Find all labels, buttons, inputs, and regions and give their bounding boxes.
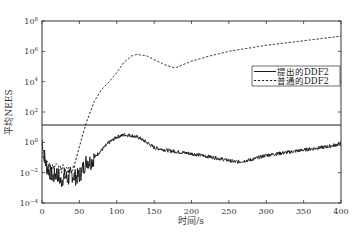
x-axis-ticks: 050100150200250300350400 <box>39 21 348 216</box>
y-tick-label: 102 <box>24 107 38 118</box>
legend: 提出的DDF2 普通的DDF2 <box>252 66 340 86</box>
y-tick-label: 104 <box>24 76 38 87</box>
x-tick-label: 400 <box>333 207 348 216</box>
plot-frame <box>42 21 341 203</box>
y-tick-label: 100 <box>24 137 38 148</box>
legend-label-ordinary: 普通的DDF2 <box>277 76 329 86</box>
series-proposed-ddf2 <box>42 133 341 186</box>
x-tick-label: 200 <box>184 207 199 216</box>
plot-area <box>42 36 341 186</box>
x-tick-label: 100 <box>109 207 124 216</box>
x-tick-label: 50 <box>74 207 84 216</box>
x-tick-label: 300 <box>259 207 274 216</box>
x-tick-label: 150 <box>146 207 161 216</box>
y-tick-label: 10−2 <box>20 167 38 178</box>
x-tick-label: 0 <box>39 207 44 216</box>
y-tick-label: 10−4 <box>20 198 39 209</box>
x-axis-label: 时间/s <box>178 215 204 226</box>
y-tick-label: 108 <box>24 16 38 27</box>
y-axis-label: 平均NEES <box>3 89 14 134</box>
nees-chart: 050100150200250300350400 108106104102100… <box>0 0 360 234</box>
x-tick-label: 350 <box>296 207 311 216</box>
y-tick-label: 106 <box>24 46 38 57</box>
x-tick-label: 250 <box>221 207 236 216</box>
